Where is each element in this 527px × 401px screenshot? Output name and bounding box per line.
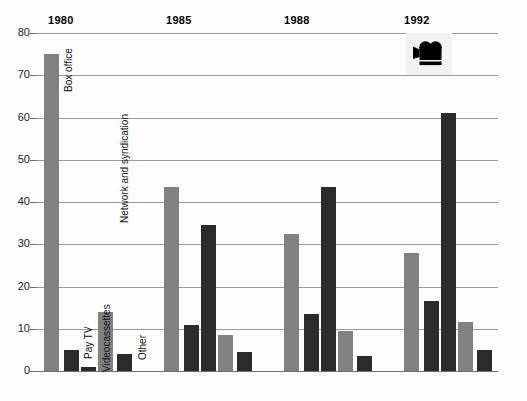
y-tick-mark xyxy=(30,118,37,119)
gridline xyxy=(37,118,498,119)
bar-1985-other xyxy=(237,352,252,371)
y-tick-mark xyxy=(30,244,37,245)
y-tick-mark xyxy=(30,33,37,34)
y-tick-mark xyxy=(30,160,37,161)
series-label-box-office: Box office xyxy=(64,48,74,92)
bar-1992-pay-tv xyxy=(424,301,439,371)
y-axis-tick-label: 80 xyxy=(2,27,30,38)
bar-1980-pay-tv xyxy=(64,350,79,371)
gridline xyxy=(37,160,498,161)
y-axis-tick-label: 60 xyxy=(2,112,30,123)
bar-1985-network-and-syndication xyxy=(218,335,233,371)
y-axis-tick-label: 70 xyxy=(2,69,30,80)
y-tick-mark xyxy=(30,75,37,76)
year-label-1988: 1988 xyxy=(284,14,310,26)
bar-1992-other xyxy=(477,350,492,371)
bar-1988-box-office xyxy=(284,234,299,371)
year-label-1992: 1992 xyxy=(404,14,430,26)
year-label-1980: 1980 xyxy=(48,14,74,26)
series-label-pay-tv: Pay TV xyxy=(84,326,94,359)
year-label-1985: 1985 xyxy=(166,14,192,26)
bar-1992-network-and-syndication xyxy=(458,322,473,371)
bar-1992-videocassettes xyxy=(441,113,456,371)
gridline xyxy=(37,75,498,76)
y-axis-tick-label: 30 xyxy=(2,238,30,249)
y-axis-tick-label: 10 xyxy=(2,323,30,334)
y-tick-mark xyxy=(30,287,37,288)
bar-1985-pay-tv xyxy=(184,325,199,371)
gridline xyxy=(37,202,498,203)
bar-1992-box-office xyxy=(404,253,419,371)
bar-1980-videocassettes xyxy=(81,367,96,371)
bar-1988-pay-tv xyxy=(304,314,319,371)
y-axis-tick-label: 20 xyxy=(2,281,30,292)
bar-1988-network-and-syndication xyxy=(338,331,353,371)
y-tick-mark xyxy=(30,329,37,330)
gridline xyxy=(37,287,498,288)
bar-1988-videocassettes xyxy=(321,187,336,371)
y-axis-tick-label: 0 xyxy=(2,365,30,376)
gridline xyxy=(37,244,498,245)
bar-1980-other xyxy=(117,354,132,371)
bar-1988-other xyxy=(357,356,372,371)
y-tick-mark xyxy=(30,202,37,203)
series-label-other: Other xyxy=(138,335,148,360)
movie-camera-icon xyxy=(406,33,452,75)
chart-canvas: 807060504030201001980198519881992Box off… xyxy=(0,0,527,401)
y-axis-tick-label: 50 xyxy=(2,154,30,165)
series-label-network-and-syndication: Network and syndication xyxy=(120,114,130,223)
bar-1980-box-office xyxy=(44,54,59,371)
y-tick-mark xyxy=(30,371,37,372)
bar-1985-box-office xyxy=(164,187,179,371)
series-label-videocassettes: Videocassettes xyxy=(102,304,112,372)
y-axis-tick-label: 40 xyxy=(2,196,30,207)
bar-1985-videocassettes xyxy=(201,225,216,371)
